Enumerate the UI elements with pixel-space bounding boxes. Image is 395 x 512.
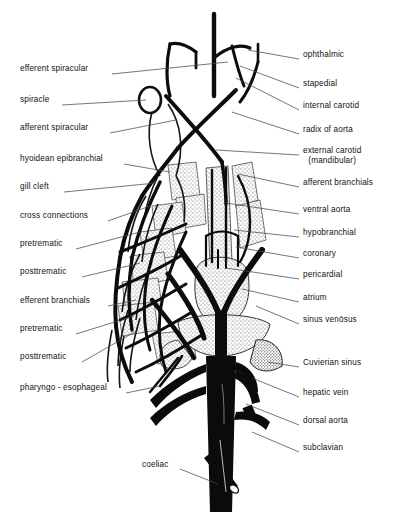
label-efferent-branchials: efferent branchials	[10, 296, 90, 306]
label-radix-of-aorta: radix of aorta	[303, 125, 353, 135]
label-gill-cleft: gill cleft	[10, 182, 49, 192]
label-pericardial: pericardial	[303, 270, 342, 280]
label-cuvierian-sinus: Cuvierian sinus	[303, 358, 361, 368]
label-ventral-aorta: ventral aorta	[303, 205, 350, 215]
label-pretrematic-2: pretrematic	[10, 324, 63, 334]
label-cross-connections: cross connections	[10, 211, 88, 221]
label-spiracle: spiracle	[10, 95, 49, 105]
figure-canvas: efferent spiracularspiracleafferent spir…	[0, 0, 395, 512]
label-afferent-spiracular: afferent spiracular	[10, 123, 88, 133]
label-hypobranchial: hypobranchial	[303, 228, 356, 238]
label-dorsal-aorta: dorsal aorta	[303, 416, 348, 426]
label-internal-carotid: internal carotid	[303, 101, 359, 111]
label-coeliac: coeliac	[142, 460, 169, 470]
label-external-carotid-line2: (mandibular)	[303, 156, 361, 166]
label-subclavian: subclavian	[303, 443, 343, 453]
label-external-carotid: external carotid(mandibular)	[303, 146, 361, 165]
label-hyoidean-epibranchial: hyoidean epibranchial	[10, 154, 103, 164]
label-atrium: atrium	[303, 293, 327, 303]
label-sinus-venosus: sinus venōsus	[303, 315, 357, 325]
label-coronary: coronary	[303, 249, 336, 259]
label-posttrematic-1: posttrematic	[10, 267, 66, 277]
label-ophthalmic: ophthalmic	[303, 50, 344, 60]
label-efferent-spiracular: efferent spiracular	[10, 64, 88, 74]
label-afferent-branchials: afferent branchials	[303, 178, 373, 188]
label-hepatic-vein: hepatic vein	[303, 388, 349, 398]
label-pretrematic-1: pretrematic	[10, 239, 63, 249]
label-stapedial: stapedial	[303, 79, 337, 89]
label-posttrematic-2: posttrematic	[10, 352, 66, 362]
label-pharyngo-esophageal: pharyngo - esophageal	[10, 383, 107, 393]
